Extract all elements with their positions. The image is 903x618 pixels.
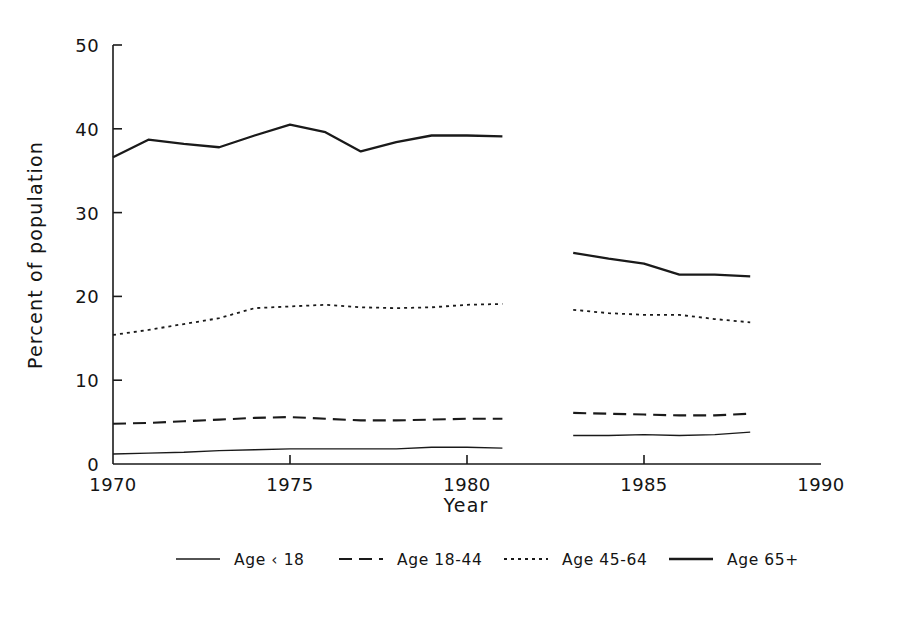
line-chart: 01020304050 19701975198019851990 Year Pe… [0,0,903,618]
y-tick-label: 10 [75,370,99,391]
chart-background [0,0,903,618]
y-tick-label: 0 [87,454,99,475]
y-tick-label: 50 [75,35,99,56]
x-tick-label: 1980 [443,474,490,495]
x-tick-label: 1985 [620,474,667,495]
x-tick-label: 1990 [797,474,844,495]
chart-figure: 01020304050 19701975198019851990 Year Pe… [0,0,903,618]
y-axis-title: Percent of population [24,141,46,369]
y-tick-label: 40 [75,119,99,140]
x-tick-label: 1975 [266,474,313,495]
legend-label-2: Age 18-44 [397,551,482,569]
x-tick-label: 1970 [89,474,136,495]
legend-label-1: Age ‹ 18 [234,551,305,569]
y-tick-label: 30 [75,203,99,224]
y-tick-label: 20 [75,286,99,307]
x-axis-title: Year [442,494,488,516]
legend-label-4: Age 65+ [727,551,799,569]
legend-label-3: Age 45-64 [562,551,647,569]
